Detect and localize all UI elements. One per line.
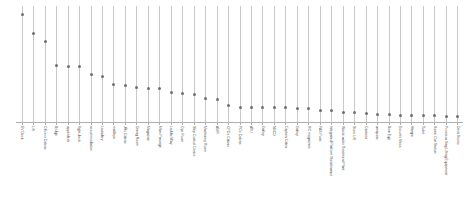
- x-axis-tick: [240, 122, 241, 125]
- data-point[interactable]: [181, 92, 184, 95]
- data-point[interactable]: [193, 93, 196, 96]
- category-label: Store Lift: [352, 126, 356, 140]
- x-axis-tick: [377, 122, 378, 125]
- gridline: [297, 6, 298, 122]
- category-label: JRs Cabins: [123, 126, 127, 144]
- category-label: CPOs Cabins: [226, 126, 230, 147]
- x-axis-tick: [205, 122, 206, 125]
- category-label: Officers Cabins: [42, 126, 46, 150]
- x-axis-tick: [308, 122, 309, 125]
- data-point[interactable]: [261, 106, 264, 109]
- data-point[interactable]: [296, 107, 299, 110]
- category-label: Bow Eqp: [386, 126, 390, 140]
- x-axis-tick: [354, 122, 355, 125]
- data-point[interactable]: [227, 104, 230, 107]
- data-point[interactable]: [353, 111, 356, 114]
- data-point[interactable]: [273, 106, 276, 109]
- category-label: Ladder/Way: [168, 126, 172, 145]
- data-point[interactable]: [330, 109, 333, 112]
- data-point[interactable]: [422, 114, 425, 117]
- category-label: Escort's Mess: [398, 126, 402, 147]
- category-label: RO magazines: [306, 126, 310, 149]
- gridline: [343, 6, 344, 122]
- data-point[interactable]: [410, 114, 413, 117]
- data-point[interactable]: [67, 65, 70, 68]
- x-axis-tick: [102, 122, 103, 125]
- category-label: Ops Room: [180, 126, 184, 142]
- data-point[interactable]: [32, 32, 35, 35]
- x-axis-tick: [400, 122, 401, 125]
- gridline: [434, 6, 435, 122]
- data-point[interactable]: [124, 84, 127, 87]
- data-point[interactable]: [284, 106, 287, 109]
- category-label: POs Cabins: [237, 126, 241, 144]
- gridline: [400, 6, 401, 122]
- x-axis-tick: [217, 122, 218, 125]
- data-point[interactable]: [170, 91, 173, 94]
- data-point[interactable]: [135, 86, 138, 89]
- gridline: [194, 6, 195, 122]
- category-label: Integrated Platform Maintenance: [329, 126, 333, 176]
- data-point[interactable]: [342, 111, 345, 114]
- category-label: Lift: [31, 126, 35, 131]
- category-label: Ship Control Centre: [191, 126, 195, 156]
- gridline: [182, 6, 183, 122]
- gridline: [423, 6, 424, 122]
- data-point[interactable]: [204, 97, 207, 100]
- x-axis-tick: [171, 122, 172, 125]
- x-axis-tick: [91, 122, 92, 125]
- category-label: Bridge: [54, 126, 58, 136]
- x-axis-tick: [411, 122, 412, 125]
- data-point[interactable]: [112, 83, 115, 86]
- gridline: [125, 6, 126, 122]
- data-point[interactable]: [147, 87, 150, 90]
- data-point[interactable]: [445, 115, 448, 118]
- x-axis-tick: [228, 122, 229, 125]
- category-label: upperdeck: [65, 126, 69, 142]
- x-axis-tick: [434, 122, 435, 125]
- category-label: Waste water Treatment Plant: [340, 126, 344, 171]
- scatter-chart: EV DeckLiftOfficers CabinsBridgeupperdec…: [0, 0, 475, 201]
- x-axis-tick: [182, 122, 183, 125]
- x-axis-tick: [56, 122, 57, 125]
- data-point[interactable]: [319, 109, 322, 112]
- x-axis-tick: [113, 122, 114, 125]
- data-point[interactable]: [239, 106, 242, 109]
- data-point[interactable]: [376, 113, 379, 116]
- gridline: [320, 6, 321, 122]
- category-label: Dining Room: [134, 126, 138, 146]
- gridline: [113, 6, 114, 122]
- x-axis-tick: [457, 122, 458, 125]
- data-point[interactable]: [388, 113, 391, 116]
- data-point[interactable]: [101, 75, 104, 78]
- category-label: Toilet: [421, 126, 425, 134]
- data-point[interactable]: [21, 13, 24, 16]
- data-point[interactable]: [44, 40, 47, 43]
- category-label: Galley: [260, 126, 264, 136]
- category-label: accommodation: [88, 126, 92, 150]
- data-point[interactable]: [399, 114, 402, 117]
- category-label: weapons: [375, 126, 379, 140]
- x-axis-tick: [251, 122, 252, 125]
- data-point[interactable]: [78, 65, 81, 68]
- data-point[interactable]: [456, 115, 459, 118]
- category-label: ATU: [249, 126, 253, 133]
- gridline: [217, 6, 218, 122]
- data-point[interactable]: [365, 112, 368, 115]
- x-axis-tick: [285, 122, 286, 125]
- gridline: [91, 6, 92, 122]
- data-point[interactable]: [307, 107, 310, 110]
- category-label: Captain Cabin: [283, 126, 287, 148]
- gridline: [22, 6, 23, 122]
- category-label: NBCD: [272, 126, 276, 136]
- gridline: [274, 6, 275, 122]
- data-point[interactable]: [250, 106, 253, 109]
- x-axis-tick: [159, 122, 160, 125]
- data-point[interactable]: [216, 98, 219, 101]
- data-point[interactable]: [433, 114, 436, 117]
- data-point[interactable]: [158, 87, 161, 90]
- gridline: [308, 6, 309, 122]
- category-label: Canteen: [363, 126, 367, 139]
- gridline: [102, 6, 103, 122]
- data-point[interactable]: [55, 64, 58, 67]
